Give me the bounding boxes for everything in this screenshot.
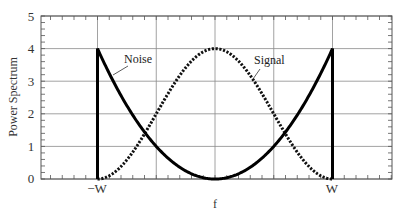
power-spectrum-chart: Noise Signal 0 1 2 3 4 5 −W W f Power Sp… xyxy=(0,0,404,216)
x-tick-pos-w: W xyxy=(326,181,339,196)
noise-annotation: Noise xyxy=(124,52,152,66)
x-axis-label: f xyxy=(213,197,217,211)
y-tick-4: 4 xyxy=(28,41,35,56)
y-axis-label: Power Spectrum xyxy=(6,57,20,137)
y-tick-1: 1 xyxy=(28,139,35,154)
y-tick-2: 2 xyxy=(28,106,35,121)
y-tick-3: 3 xyxy=(28,74,35,89)
y-tick-5: 5 xyxy=(28,9,35,24)
signal-annotation: Signal xyxy=(254,53,285,67)
y-tick-0: 0 xyxy=(28,171,35,186)
x-tick-neg-w: −W xyxy=(87,181,107,196)
plot-area xyxy=(41,16,392,179)
